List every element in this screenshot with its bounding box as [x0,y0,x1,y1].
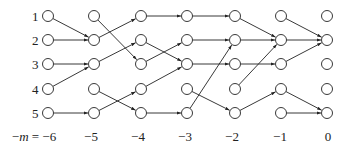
edge-arrow [146,67,182,87]
row-labels: 12345 [32,9,39,121]
state-node [230,59,241,70]
edge-arrow [53,19,89,38]
edge-arrow [99,43,136,62]
edge-arrow [239,44,277,85]
state-node [89,84,100,95]
column-label: 0 [325,129,332,144]
state-node [136,59,147,70]
state-node [322,35,333,46]
state-node [276,59,287,70]
row-label: 1 [32,9,39,24]
row-label: 2 [32,33,39,48]
state-node [182,108,193,119]
state-node [182,59,193,70]
state-node [182,35,193,46]
nodes-layer [43,11,333,119]
state-node [136,35,147,46]
state-node [276,35,287,46]
edge-arrow [190,45,232,108]
state-node [89,11,100,22]
state-node [136,84,147,95]
edge-arrow [53,67,89,87]
state-node [43,84,54,95]
row-label: 5 [32,106,39,121]
state-node [43,11,54,22]
row-label: 3 [32,57,39,72]
state-node [136,11,147,22]
column-labels: −m = −6−5−4−3−2−10 [12,129,331,144]
state-node [43,108,54,119]
state-node [182,84,193,95]
column-label: −2 [225,129,239,144]
state-node [230,84,241,95]
state-node [230,11,241,22]
edge-arrow [240,92,276,111]
state-node [276,84,287,95]
edge-arrow [286,19,322,38]
state-node [322,11,333,22]
state-node [276,11,287,22]
column-label: −m = −6 [12,129,57,144]
state-node [136,108,147,119]
state-node [89,59,100,70]
state-node [322,108,333,119]
column-label: −4 [131,129,145,144]
column-label: −5 [84,129,98,144]
state-node [322,84,333,95]
edge-arrow [192,91,230,110]
column-label: −1 [273,129,287,144]
row-label: 4 [32,82,39,97]
state-node [43,59,54,70]
column-label: −3 [178,129,192,144]
trellis-diagram: 12345 −m = −6−5−4−3−2−10 [0,0,350,150]
state-node [89,35,100,46]
state-node [43,35,54,46]
edge-arrow [286,43,322,62]
state-node [89,108,100,119]
state-node [276,108,287,119]
edge-arrow [286,92,322,111]
state-node [322,59,333,70]
edge-arrow [99,19,136,38]
state-node [182,11,193,22]
state-node [230,108,241,119]
edge-arrow [98,20,137,60]
state-node [230,35,241,46]
edge-arrow [240,19,276,38]
